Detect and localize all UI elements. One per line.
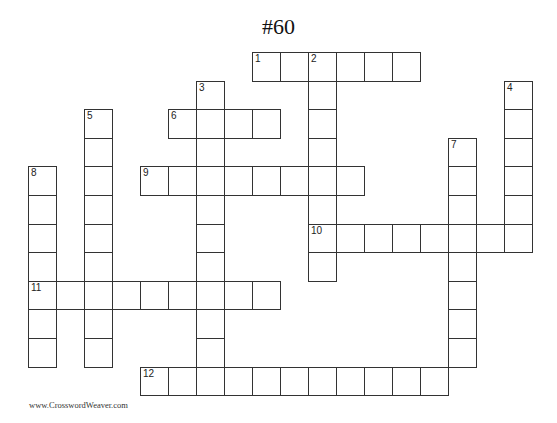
crossword-cell[interactable] — [280, 166, 309, 196]
footer-credit: www.CrosswordWeaver.com — [29, 400, 128, 410]
crossword-cell[interactable] — [252, 109, 281, 139]
crossword-cell[interactable] — [56, 281, 85, 311]
clue-number: 6 — [171, 111, 177, 121]
clue-number: 1 — [255, 54, 261, 64]
crossword-cell[interactable] — [420, 224, 449, 254]
crossword-cell[interactable] — [308, 252, 337, 282]
crossword-cell[interactable] — [308, 367, 337, 397]
crossword-cell[interactable] — [448, 224, 477, 254]
clue-number: 3 — [199, 83, 205, 93]
crossword-cell[interactable] — [504, 109, 533, 139]
crossword-cell[interactable] — [196, 338, 225, 368]
crossword-cell[interactable] — [84, 166, 113, 196]
clue-number: 10 — [311, 226, 322, 236]
crossword-cell[interactable] — [392, 224, 421, 254]
crossword-cell[interactable] — [308, 138, 337, 168]
crossword-cell[interactable] — [476, 224, 505, 254]
crossword-cell[interactable] — [196, 109, 225, 139]
clue-number: 8 — [31, 168, 37, 178]
crossword-cell[interactable] — [364, 367, 393, 397]
crossword-cell[interactable] — [28, 195, 57, 225]
crossword-cell[interactable] — [84, 224, 113, 254]
crossword-cell[interactable] — [252, 281, 281, 311]
crossword-cell[interactable] — [84, 309, 113, 339]
crossword-cell[interactable] — [420, 367, 449, 397]
crossword-cell[interactable] — [84, 195, 113, 225]
crossword-cell[interactable] — [308, 81, 337, 111]
crossword-cell[interactable] — [308, 195, 337, 225]
crossword-cell[interactable]: 12 — [140, 367, 169, 397]
crossword-cell[interactable] — [196, 166, 225, 196]
crossword-cell[interactable]: 9 — [140, 166, 169, 196]
crossword-cell[interactable] — [280, 367, 309, 397]
clue-number: 9 — [143, 168, 149, 178]
crossword-cell[interactable] — [504, 166, 533, 196]
crossword-cell[interactable] — [196, 195, 225, 225]
crossword-cell[interactable]: 1 — [252, 52, 281, 82]
crossword-cell[interactable]: 7 — [448, 138, 477, 168]
crossword-cell[interactable] — [84, 138, 113, 168]
crossword-cell[interactable] — [168, 367, 197, 397]
crossword-cell[interactable] — [308, 109, 337, 139]
clue-number: 2 — [311, 54, 317, 64]
crossword-cell[interactable] — [448, 309, 477, 339]
crossword-cell[interactable] — [448, 281, 477, 311]
crossword-grid: 121034567811912 — [0, 0, 557, 423]
crossword-cell[interactable] — [224, 281, 253, 311]
clue-number: 7 — [451, 140, 457, 150]
crossword-cell[interactable] — [168, 281, 197, 311]
crossword-cell[interactable] — [448, 166, 477, 196]
crossword-cell[interactable] — [504, 138, 533, 168]
clue-number: 11 — [31, 283, 41, 293]
crossword-cell[interactable] — [448, 252, 477, 282]
crossword-cell[interactable] — [140, 281, 169, 311]
crossword-cell[interactable] — [196, 309, 225, 339]
crossword-cell[interactable] — [336, 224, 365, 254]
clue-number: 5 — [87, 111, 93, 121]
crossword-cell[interactable] — [504, 195, 533, 225]
crossword-cell[interactable] — [84, 338, 113, 368]
crossword-cell[interactable]: 4 — [504, 81, 533, 111]
crossword-cell[interactable]: 11 — [28, 281, 57, 311]
crossword-cell[interactable]: 6 — [168, 109, 197, 139]
crossword-cell[interactable] — [392, 367, 421, 397]
crossword-cell[interactable]: 2 — [308, 52, 337, 82]
crossword-cell[interactable] — [224, 367, 253, 397]
crossword-cell[interactable] — [196, 252, 225, 282]
crossword-cell[interactable] — [112, 281, 141, 311]
crossword-cell[interactable] — [28, 252, 57, 282]
crossword-cell[interactable] — [28, 224, 57, 254]
crossword-cell[interactable] — [196, 224, 225, 254]
crossword-cell[interactable] — [336, 166, 365, 196]
crossword-cell[interactable] — [196, 281, 225, 311]
crossword-cell[interactable] — [252, 367, 281, 397]
crossword-cell[interactable] — [448, 195, 477, 225]
clue-number: 4 — [507, 83, 513, 93]
crossword-cell[interactable] — [84, 281, 113, 311]
crossword-cell[interactable] — [196, 367, 225, 397]
crossword-cell[interactable] — [280, 52, 309, 82]
crossword-cell[interactable] — [392, 52, 421, 82]
crossword-cell[interactable] — [28, 338, 57, 368]
crossword-cell[interactable] — [168, 166, 197, 196]
crossword-cell[interactable] — [504, 224, 533, 254]
crossword-cell[interactable]: 8 — [28, 166, 57, 196]
crossword-cell[interactable] — [448, 338, 477, 368]
crossword-cell[interactable] — [84, 252, 113, 282]
crossword-cell[interactable] — [364, 52, 393, 82]
crossword-cell[interactable] — [252, 166, 281, 196]
crossword-cell[interactable] — [196, 138, 225, 168]
crossword-cell[interactable] — [224, 109, 253, 139]
crossword-cell[interactable]: 10 — [308, 224, 337, 254]
crossword-cell[interactable]: 5 — [84, 109, 113, 139]
crossword-cell[interactable] — [224, 166, 253, 196]
crossword-cell[interactable] — [28, 309, 57, 339]
crossword-cell[interactable]: 3 — [196, 81, 225, 111]
clue-number: 12 — [143, 369, 154, 379]
crossword-cell[interactable] — [364, 224, 393, 254]
crossword-cell[interactable] — [336, 52, 365, 82]
crossword-cell[interactable] — [336, 367, 365, 397]
crossword-cell[interactable] — [308, 166, 337, 196]
